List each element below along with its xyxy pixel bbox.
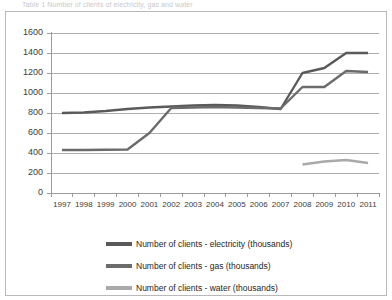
legend-color-swatch bbox=[106, 264, 132, 268]
gridlines bbox=[47, 33, 379, 193]
y-axis-tick-label: 600 bbox=[9, 128, 43, 137]
x-axis-tick-label: 2011 bbox=[357, 200, 379, 209]
x-axis-tick-label: 1998 bbox=[73, 200, 95, 209]
y-axis-tick-label: 200 bbox=[9, 168, 43, 177]
x-axis-tick-label: 2008 bbox=[292, 200, 314, 209]
y-axis-tick-label: 1000 bbox=[9, 88, 43, 97]
legend-item: Number of clients - electricity (thousan… bbox=[106, 233, 376, 255]
plot-area: 02004006008001000120014001600 1997199819… bbox=[6, 12, 388, 297]
x-axis-ticks bbox=[51, 193, 379, 197]
x-axis-tick-label: 1999 bbox=[95, 200, 117, 209]
y-axis-tick-label: 1400 bbox=[9, 48, 43, 57]
chart-legend: Number of clients - electricity (thousan… bbox=[106, 233, 376, 299]
data-series-group bbox=[62, 53, 368, 165]
legend-item: Number of clients - gas (thousands) bbox=[106, 255, 376, 277]
x-axis-tick-label: 2007 bbox=[270, 200, 292, 209]
x-axis-tick-label: 2004 bbox=[204, 200, 226, 209]
cropped-caption-text: Table 1 Number of clients of electricity… bbox=[0, 0, 392, 9]
x-axis-tick-label: 1997 bbox=[51, 200, 73, 209]
x-axis-tick-label: 2002 bbox=[160, 200, 182, 209]
x-axis-tick-label: 2005 bbox=[226, 200, 248, 209]
chart-frame: 02004006008001000120014001600 1997199819… bbox=[5, 11, 387, 296]
y-axis-tick-label: 1600 bbox=[9, 28, 43, 37]
x-axis-tick-label: 2000 bbox=[117, 200, 139, 209]
legend-label: Number of clients - water (thousands) bbox=[136, 283, 278, 293]
legend-color-swatch bbox=[106, 286, 132, 290]
y-axis-tick-label: 400 bbox=[9, 148, 43, 157]
line-chart-figure: Table 1 Number of clients of electricity… bbox=[0, 0, 392, 300]
y-axis-tick-label: 0 bbox=[9, 188, 43, 197]
legend-item: Number of clients - water (thousands) bbox=[106, 277, 376, 299]
legend-label: Number of clients - electricity (thousan… bbox=[136, 239, 292, 249]
legend-color-swatch bbox=[106, 242, 132, 246]
y-axis-tick-label: 800 bbox=[9, 108, 43, 117]
x-axis-tick-label: 2009 bbox=[313, 200, 335, 209]
x-axis-tick-label: 2006 bbox=[248, 200, 270, 209]
x-axis-tick-label: 2003 bbox=[182, 200, 204, 209]
y-axis-tick-label: 1200 bbox=[9, 68, 43, 77]
legend-label: Number of clients - gas (thousands) bbox=[136, 261, 271, 271]
x-axis-tick-label: 2010 bbox=[335, 200, 357, 209]
x-axis-tick-label: 2001 bbox=[138, 200, 160, 209]
